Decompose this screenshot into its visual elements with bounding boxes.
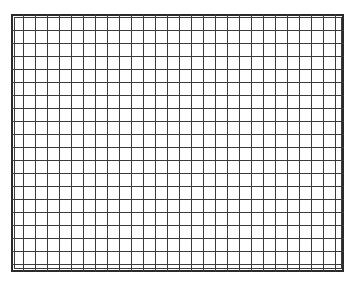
- grid-vertical-line: [287, 14, 288, 272]
- grid-vertical-line: [275, 14, 276, 272]
- grid-vertical-line: [131, 14, 132, 272]
- grid-vertical-line: [203, 14, 204, 272]
- grid-horizontal-line: [11, 95, 344, 96]
- grid-vertical-line: [155, 14, 156, 272]
- grid-vertical-line: [227, 14, 228, 272]
- grid-vertical-line: [311, 14, 312, 272]
- grid-vertical-line: [323, 14, 324, 272]
- grid-horizontal-line: [11, 69, 344, 70]
- grid-vertical-line: [263, 14, 264, 272]
- grid-vertical-line: [23, 14, 24, 272]
- grid-horizontal-line: [11, 147, 344, 148]
- grid-vertical-line: [119, 14, 120, 272]
- grid-vertical-line: [335, 14, 336, 272]
- grid-vertical-line: [191, 14, 192, 272]
- grid-horizontal-line: [11, 108, 344, 109]
- grid-horizontal-line: [11, 212, 344, 213]
- grid-horizontal-line: [11, 82, 344, 83]
- grid-horizontal-line: [11, 160, 344, 161]
- grid-horizontal-line: [11, 251, 344, 252]
- grid-vertical-line: [143, 14, 144, 272]
- grid-vertical-line: [215, 14, 216, 272]
- grid-horizontal-line: [11, 238, 344, 239]
- grid-horizontal-line: [11, 121, 344, 122]
- grid-horizontal-line: [11, 134, 344, 135]
- grid-horizontal-line: [11, 186, 344, 187]
- grid-vertical-line: [95, 14, 96, 272]
- grid-vertical-line: [83, 14, 84, 272]
- grid-vertical-line: [179, 14, 180, 272]
- grid-horizontal-line: [11, 43, 344, 44]
- grid-vertical-line: [59, 14, 60, 272]
- grid-horizontal-line: [11, 30, 344, 31]
- grid-vertical-line: [71, 14, 72, 272]
- grid-vertical-line: [35, 14, 36, 272]
- grid-vertical-line: [107, 14, 108, 272]
- grid-horizontal-line: [11, 264, 344, 265]
- grid-vertical-line: [47, 14, 48, 272]
- grid-vertical-line: [251, 14, 252, 272]
- grid-vertical-line: [239, 14, 240, 272]
- grid-vertical-line: [167, 14, 168, 272]
- grid-inner-border: [14, 17, 342, 269]
- grid-vertical-line: [299, 14, 300, 272]
- grid-horizontal-line: [11, 225, 344, 226]
- grid-horizontal-line: [11, 199, 344, 200]
- grid-horizontal-line: [11, 173, 344, 174]
- grid-horizontal-line: [11, 56, 344, 57]
